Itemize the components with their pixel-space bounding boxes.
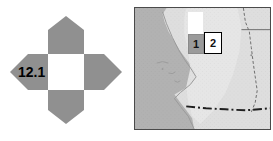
figure-root: 12.1 xyxy=(0,0,273,141)
pan-arrow-south[interactable] xyxy=(48,90,84,124)
pan-arrow-east[interactable] xyxy=(84,54,122,90)
figure-number-label: 12.1 xyxy=(18,64,45,80)
callout-leader-tab xyxy=(188,12,203,34)
map-callout-1-label: 1 xyxy=(193,39,199,50)
map-callout-1[interactable]: 1 xyxy=(188,34,204,54)
map-callout-2[interactable]: 2 xyxy=(204,32,222,54)
pan-arrow-north[interactable] xyxy=(48,16,84,54)
pan-direction-control[interactable]: 12.1 xyxy=(10,16,122,124)
pan-center-square[interactable] xyxy=(48,54,84,90)
locator-map-panel[interactable]: 1 2 xyxy=(134,7,271,130)
pan-control-graphic: 12.1 xyxy=(10,16,122,124)
map-callout-2-label: 2 xyxy=(210,38,216,49)
